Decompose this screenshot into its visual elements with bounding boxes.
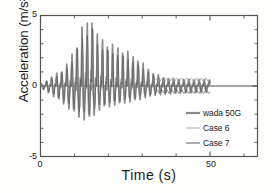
- legend-swatch-wada-50g: [186, 109, 200, 117]
- legend-label-case-6: Case 6: [203, 123, 229, 133]
- legend-swatch-case-6: [186, 124, 200, 132]
- legend-item-case-7[interactable]: Case 7: [186, 133, 266, 148]
- legend-item-wada-50g[interactable]: wada 50G: [186, 103, 266, 118]
- chart-figure: Acceleration (m/s²) 5 0 -5 0 50 Time (s)…: [0, 0, 272, 193]
- plot-area: [0, 0, 272, 193]
- legend-label-wada-50g: wada 50G: [203, 108, 241, 118]
- legend-swatch-case-7: [186, 139, 200, 147]
- legend: wada 50G Case 6 Case 7: [186, 103, 266, 148]
- legend-item-case-6[interactable]: Case 6: [186, 118, 266, 133]
- legend-label-case-7: Case 7: [203, 138, 229, 148]
